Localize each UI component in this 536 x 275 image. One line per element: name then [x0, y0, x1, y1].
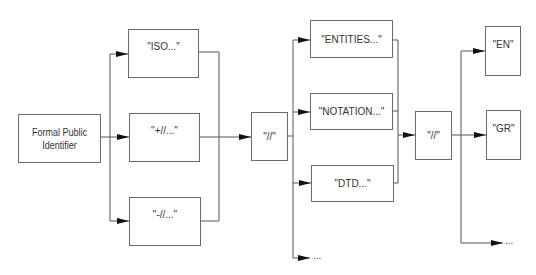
- language-gr-box: "GR": [486, 110, 521, 160]
- unregistered-owner-box: "-//...": [129, 197, 201, 246]
- separator-box-2: "//": [415, 111, 452, 160]
- formal-public-identifier-box: Formal Public Identifier: [18, 114, 101, 163]
- separator-1-label: "//": [263, 130, 276, 143]
- language-en-box: "EN": [485, 26, 521, 76]
- notation-box: "NOTATION...": [310, 93, 393, 130]
- dtd-box: "DTD...": [311, 165, 394, 202]
- registered-owner-label: "+//...": [151, 124, 178, 137]
- language-gr-label: "GR": [492, 122, 514, 135]
- root-label-line2: Identifier: [32, 139, 87, 152]
- level2-more-ellipsis: ...: [313, 250, 321, 261]
- level3-more-ellipsis: ...: [505, 235, 513, 246]
- entities-box: "ENTITIES...": [310, 20, 393, 58]
- root-label-line1: Formal Public: [32, 126, 87, 139]
- iso-owner-label: "ISO...": [147, 40, 180, 53]
- unregistered-owner-label: "-//...": [153, 208, 177, 221]
- iso-owner-box: "ISO...": [128, 29, 199, 78]
- dtd-label: "DTD...": [335, 177, 371, 190]
- registered-owner-box: "+//...": [129, 113, 200, 162]
- notation-label: "NOTATION...": [319, 105, 385, 118]
- language-en-label: "EN": [493, 38, 514, 51]
- separator-box-1: "//": [251, 112, 288, 161]
- entities-label: "ENTITIES...": [321, 33, 381, 46]
- separator-2-label: "//": [427, 129, 440, 142]
